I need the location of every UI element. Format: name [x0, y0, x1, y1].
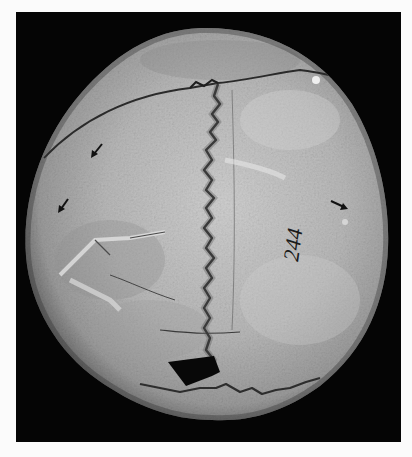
specimen-number: 244 — [278, 227, 307, 263]
skull-photo: 244 — [16, 12, 401, 442]
photo-frame: 244 — [16, 12, 401, 442]
skull — [25, 28, 388, 420]
